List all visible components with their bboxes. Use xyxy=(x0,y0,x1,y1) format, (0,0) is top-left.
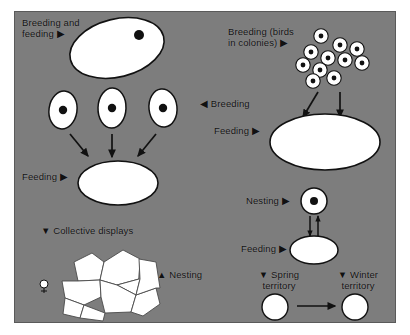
colony-nest-ring xyxy=(350,42,364,56)
nest-dot xyxy=(59,106,67,114)
mosaic-cell xyxy=(74,253,104,281)
mosaic-cell xyxy=(100,250,140,285)
colony-nest-ring xyxy=(314,29,328,43)
nest-dot xyxy=(134,30,144,40)
label-nesting-right: Nesting ▶ xyxy=(246,196,290,207)
display-ground-mosaic xyxy=(62,250,160,321)
label-spring-territory: ▼ Spring territory xyxy=(250,270,308,291)
shared-feeding-oval xyxy=(78,161,158,205)
label-breeding-and-feeding: Breeding and feeding ▶ xyxy=(22,18,80,39)
label-feeding-left: Feeding ▶ xyxy=(22,172,68,183)
label-feeding-right-bottom: Feeding ▶ xyxy=(241,244,287,255)
colony-nest-ring xyxy=(333,38,347,52)
nesting-circle xyxy=(301,188,327,214)
label-breeding-colonies: Breeding (birds in colonies) ▶ xyxy=(228,27,294,48)
label-collective-displays: ▼ Collective displays xyxy=(41,226,133,237)
diagram-figure: Breeding and feeding ▶ Feeding ▶ ▼ Colle… xyxy=(0,0,410,335)
lone-nest-marker xyxy=(40,280,48,293)
arrow-territory3-to-feeding xyxy=(138,134,156,156)
colony-nest-ring xyxy=(338,53,352,67)
colony-nest-ring xyxy=(304,45,318,59)
communal-feeding-oval xyxy=(270,114,380,170)
arrow-colony-to-feeding-left xyxy=(303,92,318,117)
nest-dot xyxy=(159,104,167,112)
small-territory-3 xyxy=(147,88,179,129)
arrow-territory1-to-feeding xyxy=(70,134,88,156)
small-territory-2 xyxy=(97,88,126,129)
label-nesting-left: ▲ Nesting xyxy=(157,270,202,281)
spring-territory-circle xyxy=(262,294,288,320)
feeding-oval-small xyxy=(290,236,338,264)
mosaic-cell xyxy=(80,305,105,321)
nest-dot xyxy=(108,104,116,112)
nest-dot xyxy=(310,197,318,205)
colony-nest-ring xyxy=(306,74,320,88)
label-breeding-right: ◀ Breeding xyxy=(200,99,250,110)
colony-cluster xyxy=(296,29,369,88)
colony-nest-ring xyxy=(355,56,369,70)
label-winter-territory: ▼ Winter territory xyxy=(330,270,386,291)
winter-territory-circle xyxy=(342,294,368,320)
label-feeding-right-top: Feeding ▶ xyxy=(214,126,260,137)
colony-nest-ring xyxy=(327,71,341,85)
colony-nest-ring xyxy=(296,58,310,72)
small-territory-1 xyxy=(46,89,79,131)
